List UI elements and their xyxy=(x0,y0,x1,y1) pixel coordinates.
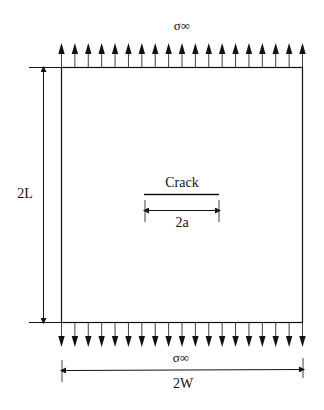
stress-arrow xyxy=(273,43,279,67)
stress-arrow xyxy=(259,323,265,347)
height-label: 2L xyxy=(17,186,33,201)
stress-arrow xyxy=(85,323,91,347)
stress-arrow xyxy=(286,43,292,67)
stress-arrow xyxy=(98,43,104,67)
stress-arrow xyxy=(165,323,171,347)
stress-arrow xyxy=(125,43,131,67)
stress-arrow xyxy=(232,43,238,67)
stress-arrow xyxy=(219,43,225,67)
stress-arrow xyxy=(286,323,292,347)
bottom-stress-label: σ∞ xyxy=(173,350,189,365)
stress-arrow xyxy=(112,323,118,347)
stress-arrow xyxy=(206,43,212,67)
stress-arrow xyxy=(246,43,252,67)
top-stress-arrows xyxy=(58,43,305,67)
stress-arrow xyxy=(299,43,305,67)
stress-arrow xyxy=(206,323,212,347)
cracked-plate-diagram: σ∞ 2L Crack 2a σ∞ 2W xyxy=(0,0,324,410)
stress-arrow xyxy=(85,43,91,67)
width-dimension-line xyxy=(63,370,302,371)
stress-arrow xyxy=(246,323,252,347)
width-label: 2W xyxy=(173,376,194,391)
stress-arrow xyxy=(179,323,185,347)
stress-arrow xyxy=(259,43,265,67)
crack-label: Crack xyxy=(165,175,198,190)
stress-arrow xyxy=(125,323,131,347)
top-stress-label: σ∞ xyxy=(174,18,190,33)
stress-arrow xyxy=(232,323,238,347)
stress-arrow xyxy=(273,323,279,347)
stress-arrow xyxy=(192,43,198,67)
stress-arrow xyxy=(179,43,185,67)
stress-arrow xyxy=(152,43,158,67)
stress-arrow xyxy=(139,323,145,347)
stress-arrow xyxy=(192,323,198,347)
crack-length-label: 2a xyxy=(175,215,189,230)
stress-arrow xyxy=(112,43,118,67)
stress-arrow xyxy=(72,323,78,347)
bottom-stress-arrows xyxy=(58,323,305,347)
stress-arrow xyxy=(165,43,171,67)
stress-arrow xyxy=(152,323,158,347)
stress-arrow xyxy=(58,43,64,67)
stress-arrow xyxy=(98,323,104,347)
stress-arrow xyxy=(72,43,78,67)
stress-arrow xyxy=(139,43,145,67)
stress-arrow xyxy=(299,323,305,347)
stress-arrow xyxy=(219,323,225,347)
stress-arrow xyxy=(58,323,64,347)
